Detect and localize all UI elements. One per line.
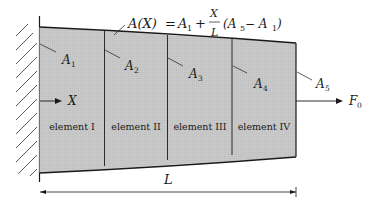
- fixed-wall-hatching: [16, 24, 37, 176]
- svg-text:A: A: [315, 77, 325, 91]
- svg-text:L: L: [210, 26, 218, 39]
- svg-text:4: 4: [263, 84, 268, 93]
- tapered-bar-diagram: A(X) = A 1 + X L (A 5 − A 1 ) A 1 A 2 A …: [0, 0, 372, 207]
- svg-text:A(X): A(X): [127, 16, 157, 31]
- svg-text:− A: − A: [245, 17, 268, 31]
- svg-text:A: A: [124, 59, 134, 73]
- svg-text:A: A: [177, 16, 187, 31]
- element-label-3: element III: [173, 121, 226, 132]
- area-label-a5: A 5: [315, 77, 330, 93]
- svg-text:(A: (A: [223, 17, 237, 31]
- svg-text:A: A: [253, 77, 263, 91]
- svg-text:1: 1: [71, 60, 76, 69]
- svg-text:1: 1: [187, 24, 192, 33]
- svg-text:3: 3: [198, 74, 203, 83]
- svg-text:X: X: [67, 94, 77, 108]
- svg-text:L: L: [163, 172, 173, 187]
- force-arrow: F 0: [296, 94, 362, 110]
- svg-text:5: 5: [325, 84, 330, 93]
- element-label-4: element IV: [238, 121, 291, 132]
- svg-text:0: 0: [357, 101, 362, 110]
- svg-text:2: 2: [134, 66, 139, 75]
- svg-text:X: X: [209, 7, 219, 20]
- svg-text:=: =: [165, 16, 176, 31]
- svg-text:A: A: [61, 53, 71, 67]
- svg-text:+: +: [195, 16, 206, 31]
- svg-text:A: A: [188, 67, 198, 81]
- svg-text:): ): [276, 17, 282, 31]
- element-label-2: element II: [111, 121, 161, 132]
- length-dimension: L: [40, 172, 296, 197]
- element-label-1: element I: [49, 121, 95, 132]
